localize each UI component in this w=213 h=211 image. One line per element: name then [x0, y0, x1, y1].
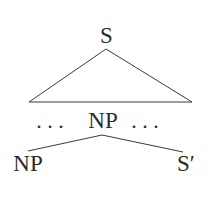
branch-left-edge — [28, 135, 102, 151]
ellipsis-right: . . . — [131, 108, 159, 133]
node-s-prime-bottom-right: S′ — [177, 151, 195, 176]
node-np-middle: NP — [88, 108, 117, 133]
ellipsis-left: . . . — [36, 108, 64, 133]
node-s-root: S — [100, 23, 113, 48]
node-np-bottom-left: NP — [13, 151, 42, 176]
triangle-subtree — [29, 49, 192, 102]
branch-right-edge — [102, 135, 183, 152]
syntax-tree-diagram: S . . . NP . . . NP S′ — [0, 0, 213, 211]
